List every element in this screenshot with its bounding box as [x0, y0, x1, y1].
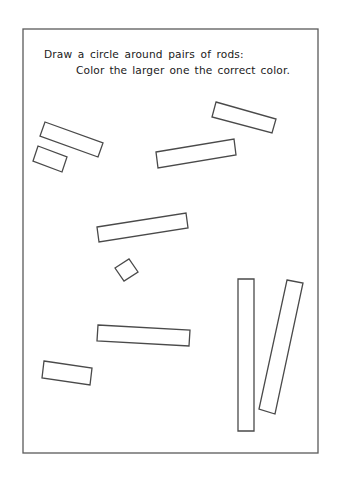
instruction-line-2: Color the larger one the correct color.: [76, 64, 290, 76]
worksheet-page: Draw a circle around pairs of rods: Colo…: [0, 0, 337, 478]
page-border: [23, 29, 318, 453]
rod-4: [156, 139, 236, 168]
rod-3: [212, 102, 276, 133]
rod-9: [238, 279, 254, 431]
rod-2: [33, 146, 67, 172]
rod-8: [42, 361, 92, 385]
rod-1: [40, 122, 103, 157]
rod-7: [97, 325, 190, 346]
rod-5: [97, 213, 188, 242]
rods-group: [33, 102, 303, 431]
rod-10: [259, 280, 303, 414]
rod-6: [115, 259, 138, 281]
instruction-line-1: Draw a circle around pairs of rods:: [44, 48, 244, 60]
